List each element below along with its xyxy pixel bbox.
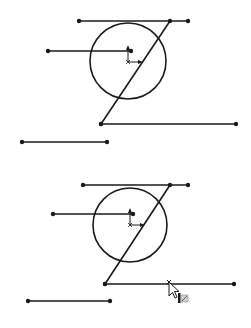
endpoint-dot[interactable] bbox=[46, 49, 50, 53]
endpoint-dot[interactable] bbox=[20, 140, 24, 144]
endpoint-dot[interactable] bbox=[108, 299, 112, 303]
endpoint-dot[interactable] bbox=[186, 19, 190, 23]
endpoint-dot[interactable] bbox=[51, 212, 55, 216]
cursor-bar bbox=[178, 293, 181, 303]
endpoint-dot[interactable] bbox=[168, 183, 172, 187]
endpoint-dot[interactable] bbox=[81, 183, 85, 187]
endpoint-dot[interactable] bbox=[105, 140, 109, 144]
origin-icon bbox=[126, 45, 143, 64]
sketch-panel-after bbox=[26, 183, 236, 303]
sketch-panel-before bbox=[20, 19, 238, 144]
sketch-diagram bbox=[0, 0, 251, 328]
endpoint-dot[interactable] bbox=[99, 122, 103, 126]
arrow-up-icon bbox=[126, 45, 130, 50]
endpoint-dot[interactable] bbox=[26, 299, 30, 303]
endpoint-dot[interactable] bbox=[186, 183, 190, 187]
sketch-diagonal-line[interactable] bbox=[105, 185, 170, 284]
sketch-diagonal-line[interactable] bbox=[101, 21, 170, 124]
endpoint-dot[interactable] bbox=[103, 282, 107, 286]
endpoint-dot[interactable] bbox=[77, 19, 81, 23]
arrow-up-icon bbox=[128, 208, 132, 213]
endpoint-dot[interactable] bbox=[232, 282, 236, 286]
origin-icon bbox=[128, 208, 145, 227]
endpoint-dot[interactable] bbox=[234, 122, 238, 126]
endpoint-dot[interactable] bbox=[168, 19, 172, 23]
